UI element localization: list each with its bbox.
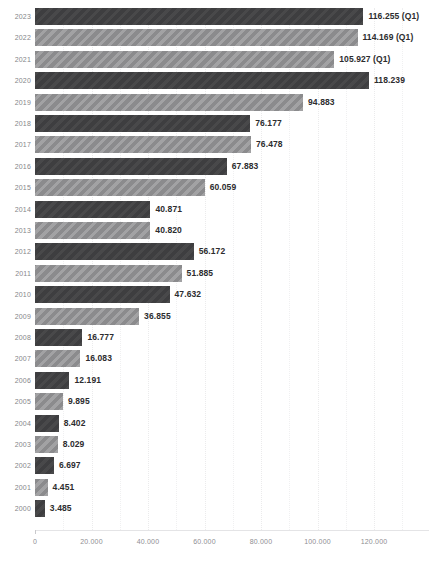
category-label: 2018 xyxy=(0,115,31,132)
bar[interactable] xyxy=(35,286,170,303)
bar-row: 201876.177 xyxy=(35,115,429,136)
bar[interactable] xyxy=(35,393,63,410)
category-label: 2017 xyxy=(0,136,31,153)
bar-row: 2023116.255 (Q1) xyxy=(35,8,429,29)
bar[interactable] xyxy=(35,500,45,517)
category-label: 2004 xyxy=(0,415,31,432)
bar[interactable] xyxy=(35,51,334,68)
bar[interactable] xyxy=(35,372,69,389)
x-axis-tick-label: 0 xyxy=(33,538,37,545)
bar-value-label: 76.177 xyxy=(255,115,282,132)
bar-row: 201440.871 xyxy=(35,201,429,222)
bar-row: 201560.059 xyxy=(35,179,429,200)
category-label: 2002 xyxy=(0,457,31,474)
category-label: 2016 xyxy=(0,158,31,175)
category-label: 2021 xyxy=(0,51,31,68)
category-label: 2003 xyxy=(0,436,31,453)
category-label: 2007 xyxy=(0,350,31,367)
bar-value-label: 16.083 xyxy=(85,350,112,367)
bar[interactable] xyxy=(35,222,150,239)
bar-value-label: 12.191 xyxy=(74,372,101,389)
bar-row: 201776.478 xyxy=(35,136,429,157)
bar[interactable] xyxy=(35,350,80,367)
bar-row: 201994.883 xyxy=(35,94,429,115)
bar[interactable] xyxy=(35,479,48,496)
bar-row: 20048.402 xyxy=(35,415,429,436)
bar-value-label: 8.029 xyxy=(63,436,85,453)
bar-row: 200612.191 xyxy=(35,372,429,393)
x-axis-tick-label: 60.000 xyxy=(193,538,216,545)
bar-row: 200936.855 xyxy=(35,308,429,329)
bar[interactable] xyxy=(35,265,182,282)
bar-value-label: 47.632 xyxy=(175,286,202,303)
category-label: 2001 xyxy=(0,479,31,496)
bar-row: 201256.172 xyxy=(35,243,429,264)
bar-row: 20014.451 xyxy=(35,479,429,500)
bar-value-label: 40.820 xyxy=(155,222,182,239)
category-label: 2009 xyxy=(0,308,31,325)
bar[interactable] xyxy=(35,115,250,132)
bar-row: 201047.632 xyxy=(35,286,429,307)
bar[interactable] xyxy=(35,29,358,46)
bar-chart: 2023116.255 (Q1)2022114.169 (Q1)2021105.… xyxy=(0,0,429,563)
bar[interactable] xyxy=(35,179,205,196)
bar-row: 201151.885 xyxy=(35,265,429,286)
bar-row: 20026.697 xyxy=(35,457,429,478)
bar-value-label: 114.169 (Q1) xyxy=(363,29,414,46)
x-axis-tick-label: 20.000 xyxy=(80,538,103,545)
bar[interactable] xyxy=(35,8,363,25)
category-label: 2019 xyxy=(0,94,31,111)
bar-value-label: 36.855 xyxy=(144,308,171,325)
bar-row: 20038.029 xyxy=(35,436,429,457)
category-label: 2006 xyxy=(0,372,31,389)
bar-value-label: 60.059 xyxy=(210,179,237,196)
category-label: 2010 xyxy=(0,286,31,303)
bar-value-label: 9.895 xyxy=(68,393,90,410)
x-axis-tick-label: 40.000 xyxy=(137,538,160,545)
bar[interactable] xyxy=(35,158,227,175)
bar[interactable] xyxy=(35,136,251,153)
category-label: 2023 xyxy=(0,8,31,25)
bar-value-label: 51.885 xyxy=(187,265,214,282)
bar-value-label: 3.485 xyxy=(50,500,72,517)
bar-row: 201667.883 xyxy=(35,158,429,179)
category-label: 2013 xyxy=(0,222,31,239)
bar-value-label: 8.402 xyxy=(64,415,86,432)
bar[interactable] xyxy=(35,308,139,325)
bar-row: 2021105.927 (Q1) xyxy=(35,51,429,72)
bar[interactable] xyxy=(35,72,369,89)
bar-row: 2022114.169 (Q1) xyxy=(35,29,429,50)
bar-value-label: 16.777 xyxy=(87,329,114,346)
bar-value-label: 56.172 xyxy=(199,243,226,260)
bar-value-label: 105.927 (Q1) xyxy=(339,51,390,68)
category-label: 2022 xyxy=(0,29,31,46)
bar-value-label: 116.255 (Q1) xyxy=(368,8,419,25)
bar[interactable] xyxy=(35,201,150,218)
bar-value-label: 40.871 xyxy=(155,201,182,218)
category-label: 2012 xyxy=(0,243,31,260)
bar-row: 20003.485 xyxy=(35,500,429,521)
bar-value-label: 67.883 xyxy=(232,158,259,175)
bar[interactable] xyxy=(35,436,58,453)
category-label: 2000 xyxy=(0,500,31,517)
bar-value-label: 4.451 xyxy=(53,479,75,496)
category-label: 2008 xyxy=(0,329,31,346)
category-label: 2015 xyxy=(0,179,31,196)
bar[interactable] xyxy=(35,243,194,260)
bar[interactable] xyxy=(35,94,303,111)
plot-area: 2023116.255 (Q1)2022114.169 (Q1)2021105.… xyxy=(35,8,429,530)
bar-value-label: 76.478 xyxy=(256,136,283,153)
x-axis-tick-label: 120.000 xyxy=(361,538,388,545)
bar-row: 200716.083 xyxy=(35,350,429,371)
bar[interactable] xyxy=(35,457,54,474)
x-axis-line xyxy=(35,530,429,531)
category-label: 2005 xyxy=(0,393,31,410)
category-label: 2011 xyxy=(0,265,31,282)
bar[interactable] xyxy=(35,415,59,432)
bar-row: 200816.777 xyxy=(35,329,429,350)
bar-value-label: 118.239 xyxy=(374,72,405,89)
x-axis-origin-tick xyxy=(35,530,36,534)
bar-row: 20059.895 xyxy=(35,393,429,414)
category-label: 2014 xyxy=(0,201,31,218)
bar[interactable] xyxy=(35,329,82,346)
